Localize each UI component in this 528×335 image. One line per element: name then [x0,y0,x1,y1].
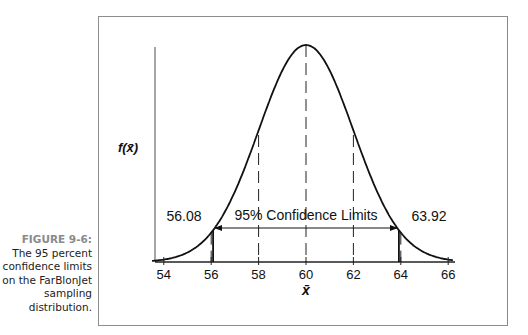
tick-label: 64 [394,267,408,282]
tick-label: 60 [299,267,313,282]
density-curve [152,45,453,261]
interval-label: 95% Confidence Limits [234,207,377,223]
y-axis-label: f(x̄) [118,140,138,155]
x-axis-ticks: 54565860626466 [157,257,456,282]
tick-label: 66 [441,267,455,282]
normal-distribution-chart: 54565860626466 95% Confidence Limits 56.… [0,0,528,335]
tick-label: 54 [157,267,171,282]
tick-label: 56 [204,267,218,282]
x-axis-label: x̄ [301,282,311,298]
tick-label: 58 [251,267,265,282]
lower-limit-label: 56.08 [166,208,201,224]
tick-label: 62 [346,267,360,282]
dashed-reference-lines [211,45,401,262]
upper-limit-label: 63.92 [411,208,446,224]
